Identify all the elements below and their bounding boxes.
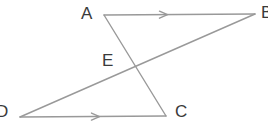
geometry-canvas xyxy=(0,0,268,128)
segment-ab xyxy=(104,14,255,15)
vertex-label-d: D xyxy=(0,103,8,120)
segment-db xyxy=(20,14,255,117)
vertex-label-b: B xyxy=(261,4,268,21)
vertex-label-c: C xyxy=(175,103,187,120)
geometry-diagram: A B E D C xyxy=(0,0,268,128)
vertex-label-e: E xyxy=(102,52,113,69)
vertex-label-a: A xyxy=(81,5,92,22)
segment-dc xyxy=(20,116,166,117)
